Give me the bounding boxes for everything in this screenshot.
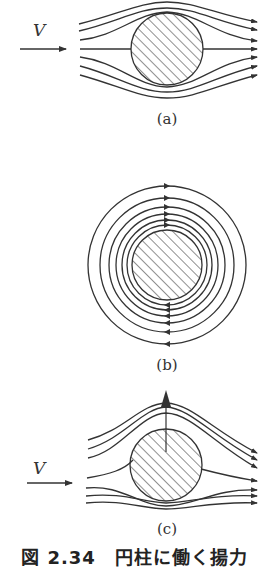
- panel-label-b: (b): [147, 356, 187, 374]
- panel-label-c: (c): [147, 520, 187, 538]
- panel-label-a: (a): [147, 110, 187, 128]
- panel-c-lift: [27, 390, 257, 509]
- panel-a-uniform-flow: [20, 2, 257, 98]
- panel-b-circulation: [88, 183, 246, 347]
- cylinder: [131, 13, 203, 85]
- cylinder: [132, 230, 202, 300]
- velocity-label-a: V: [33, 20, 45, 40]
- lift-arrowhead: [161, 390, 171, 407]
- figure-caption: 図 2.34 円柱に働く揚力: [0, 543, 269, 569]
- velocity-label-c: V: [33, 458, 45, 478]
